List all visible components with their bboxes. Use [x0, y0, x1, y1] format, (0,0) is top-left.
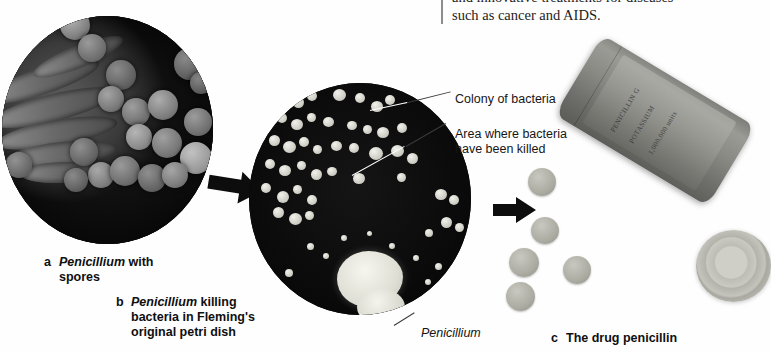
bacterial-colony	[347, 121, 357, 130]
caption-a-line-2: spores	[59, 270, 153, 285]
bacterial-colony	[299, 137, 309, 147]
bacterial-colony	[397, 173, 406, 182]
caption-b-line-2: bacteria in Fleming's	[131, 310, 255, 325]
callout-penicillium: Penicillium	[421, 326, 481, 340]
penicillin-figure: and innovative treatments for diseases s…	[0, 0, 771, 353]
bacterial-colony	[435, 189, 447, 200]
bacterial-colony	[297, 161, 306, 170]
spore	[126, 124, 152, 150]
spore	[110, 156, 140, 186]
tablet	[506, 282, 535, 311]
bacterial-colony	[425, 279, 431, 285]
bacterial-colony	[311, 169, 322, 180]
tablet	[563, 256, 591, 284]
bacterial-colony	[279, 165, 291, 176]
bacterial-colony	[397, 123, 407, 133]
caption-c: cThe drug penicillin	[551, 331, 677, 346]
spore	[6, 152, 32, 178]
body-text-line-2: such as cancer and AIDS.	[452, 7, 771, 24]
bacterial-colony	[363, 125, 372, 134]
bacterial-colony	[273, 207, 284, 218]
spore	[152, 128, 182, 158]
bacterial-colony	[265, 159, 275, 169]
bacterial-colony	[283, 141, 296, 153]
body-text-line-1-clipped: and innovative treatments for diseases	[441, 0, 771, 5]
spore	[162, 162, 188, 188]
panel-a-micrograph	[2, 16, 213, 244]
bacterial-colony	[305, 211, 314, 220]
spore	[190, 72, 212, 94]
bacterial-colony	[413, 255, 419, 261]
bacterial-colony	[307, 113, 316, 122]
tablet	[531, 217, 559, 244]
bacterial-colony	[323, 117, 334, 127]
spore	[98, 86, 124, 112]
body-text-line-1: and innovative treatments for diseases	[452, 0, 771, 5]
bacterial-colony	[349, 143, 359, 153]
bacterial-colony	[425, 229, 433, 237]
caption-c-letter: c	[551, 331, 566, 346]
bacterial-colony	[307, 195, 317, 205]
bacterial-colony	[323, 253, 329, 259]
bacterial-colony	[341, 235, 347, 241]
caption-a-rest: with	[125, 255, 153, 269]
bacterial-colony	[293, 185, 302, 194]
body-text-column: and innovative treatments for diseases s…	[441, 0, 771, 24]
caption-a-italic: Penicillium	[59, 255, 125, 269]
bacterial-colony	[435, 263, 442, 270]
caption-a: aPenicillium with spores	[44, 255, 153, 285]
caption-c-rest: The drug penicillin	[566, 331, 677, 345]
bacterial-colony	[285, 269, 293, 277]
bacterial-colony	[455, 223, 464, 232]
bacterial-colony	[353, 173, 365, 184]
caption-b-letter: b	[116, 295, 131, 310]
panel-b-petri-dish	[249, 83, 471, 315]
bacterial-colony	[261, 183, 271, 193]
spore	[122, 98, 150, 126]
panel-c-drug-photo: PENICILLIN G POTASSIUM 1,000,000 units	[500, 60, 771, 335]
bacterial-colony	[377, 127, 389, 138]
caption-a-letter: a	[44, 255, 59, 270]
bacterial-colony	[441, 217, 452, 228]
bacterial-colony	[307, 91, 317, 101]
bacterial-colony	[277, 113, 287, 123]
leader-line-penicillium-inner	[360, 314, 393, 330]
bacterial-colony	[333, 89, 346, 101]
bottle-label	[582, 54, 736, 191]
bacterial-colony	[291, 119, 303, 130]
penicillin-bottle: PENICILLIN G POTASSIUM 1,000,000 units	[555, 35, 755, 206]
bacterial-colony	[407, 153, 418, 164]
bacterial-colony	[327, 167, 337, 176]
bacterial-colony	[389, 243, 395, 249]
caption-b-line-3: original petri dish	[131, 325, 255, 340]
bacterial-colony	[293, 97, 304, 108]
bacterial-colony	[269, 135, 280, 146]
caption-b-italic: Penicillium	[131, 295, 197, 309]
spore	[78, 34, 106, 62]
bacterial-colony	[367, 231, 372, 236]
bacterial-colony	[355, 93, 365, 103]
bacterial-colony	[289, 213, 302, 225]
spore	[70, 138, 98, 166]
tablet	[509, 248, 539, 277]
bacterial-colony	[277, 191, 289, 203]
bacterial-colony	[331, 141, 342, 151]
spore	[148, 90, 178, 120]
caption-b: bPenicillium killing bacteria in Fleming…	[116, 295, 255, 340]
spore	[184, 108, 212, 136]
bacterial-colony	[313, 145, 322, 154]
bacterial-colony	[307, 243, 314, 250]
bottle-lid	[696, 230, 771, 302]
spore	[64, 168, 88, 192]
bacterial-colony	[385, 95, 395, 105]
bacterial-colony	[449, 195, 459, 205]
caption-b-rest: killing	[197, 295, 237, 309]
tablet	[528, 168, 556, 196]
